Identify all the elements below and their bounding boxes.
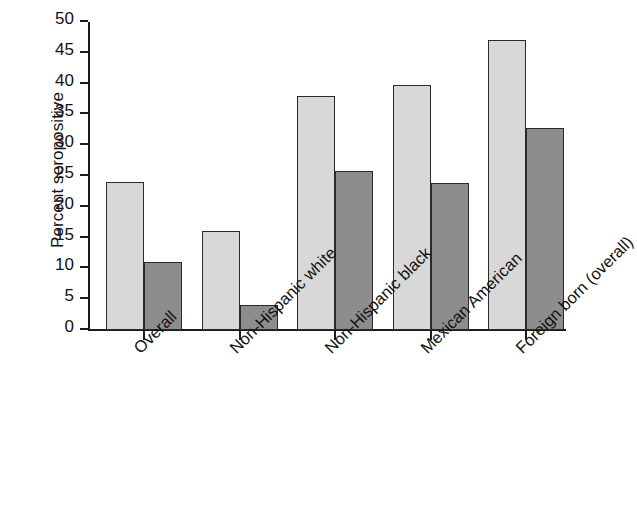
y-axis-tick: 40 — [80, 82, 88, 84]
y-axis-tick-label: 0 — [65, 317, 74, 337]
bar — [202, 231, 240, 330]
y-axis-tick: 45 — [80, 51, 88, 53]
y-axis-tick: 10 — [80, 266, 88, 268]
y-axis-tick: 25 — [80, 174, 88, 176]
y-axis-tick: 30 — [80, 143, 88, 145]
y-axis-tick-label: 35 — [55, 101, 74, 121]
bar — [297, 96, 335, 330]
y-axis-tick-label: 5 — [65, 286, 74, 306]
y-axis-tick: 15 — [80, 236, 88, 238]
y-axis-tick: 20 — [80, 205, 88, 207]
y-axis-tick: 50 — [80, 20, 88, 22]
y-axis-tick-label: 45 — [55, 40, 74, 60]
y-axis-tick: 35 — [80, 112, 88, 114]
y-axis-tick-label: 20 — [55, 194, 74, 214]
y-axis-tick-label: 40 — [55, 71, 74, 91]
bar — [106, 182, 144, 330]
y-axis-tick-label: 15 — [55, 225, 74, 245]
y-axis-tick-label: 50 — [55, 9, 74, 29]
y-axis-tick: 0 — [80, 328, 88, 330]
y-axis-tick-label: 10 — [55, 255, 74, 275]
y-axis-tick-label: 30 — [55, 132, 74, 152]
y-axis-tick: 5 — [80, 297, 88, 299]
y-axis-tick-label: 25 — [55, 163, 74, 183]
